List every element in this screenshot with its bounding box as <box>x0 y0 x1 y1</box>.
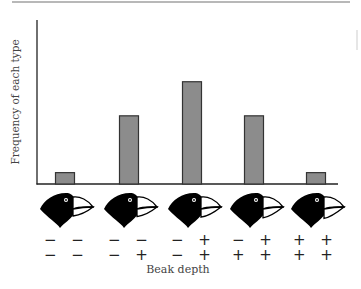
genotype-bottom: + + <box>293 248 337 263</box>
genotype-bottom: + + <box>232 248 276 263</box>
y-axis-label: Frequency of each type <box>9 22 25 182</box>
finch-head-icon <box>40 193 93 228</box>
finch-heads <box>40 193 344 228</box>
finch-head-icon <box>104 193 157 228</box>
genotype-bottom: − + <box>108 248 152 263</box>
finch-head-icon <box>230 193 283 228</box>
bars <box>56 82 326 184</box>
finch-head-icon <box>168 193 221 228</box>
bar-2 <box>183 82 202 184</box>
bar-4 <box>307 173 326 184</box>
genotype-bottom: − + <box>171 248 215 263</box>
bar-1 <box>120 116 139 184</box>
x-axis-label: Beak depth <box>128 263 228 276</box>
finch-head-icon <box>291 193 344 228</box>
bar-3 <box>245 116 264 184</box>
genotype-bottom: − − <box>44 248 88 263</box>
bar-0 <box>56 173 75 184</box>
